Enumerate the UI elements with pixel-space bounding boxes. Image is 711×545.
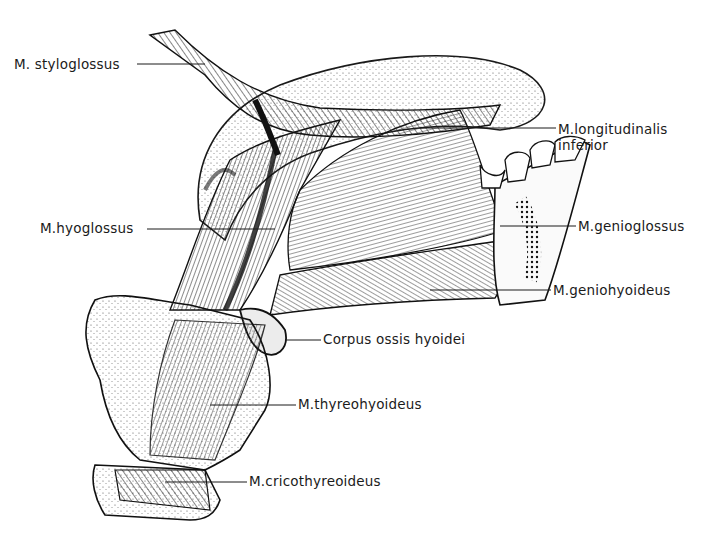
label-hyoglossus: M.hyoglossus: [40, 220, 133, 236]
label-longitudinalis-inferior: M.longitudinalis inferior: [558, 121, 668, 153]
label-styloglossus: M. styloglossus: [14, 56, 120, 72]
muscle-illustration: [0, 0, 711, 545]
label-corpus-ossis-hyoidei: Corpus ossis hyoidei: [323, 331, 465, 347]
label-cricothyreoideus: M.cricothyreoideus: [249, 473, 381, 489]
label-geniohyoideus: M.geniohyoideus: [553, 282, 670, 298]
label-thyreohyoideus: M.thyreohyoideus: [298, 396, 422, 412]
anatomical-figure: M. styloglossus M.longitudinalis inferio…: [0, 0, 711, 545]
label-genioglossus: M.genioglossus: [578, 218, 684, 234]
